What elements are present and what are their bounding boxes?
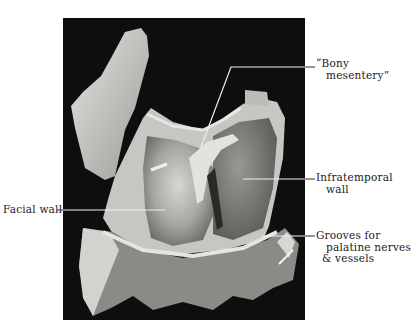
leader-lines (0, 0, 420, 334)
label-line: mesentery” (316, 70, 389, 82)
label-infratemporal-wall: Infratemporal wall (316, 172, 393, 195)
label-bony-mesentery: “Bony mesentery” (316, 58, 389, 81)
label-line: Grooves for (316, 230, 411, 242)
label-facial-wall: Facial wall (3, 204, 62, 216)
label-line: “Bony (316, 58, 389, 70)
label-line: & vessels (316, 253, 411, 265)
label-line: Infratemporal (316, 172, 393, 184)
label-line: wall (316, 184, 393, 196)
label-line: Facial wall (3, 204, 62, 216)
label-grooves: Grooves for palatine nerves & vessels (316, 230, 411, 265)
